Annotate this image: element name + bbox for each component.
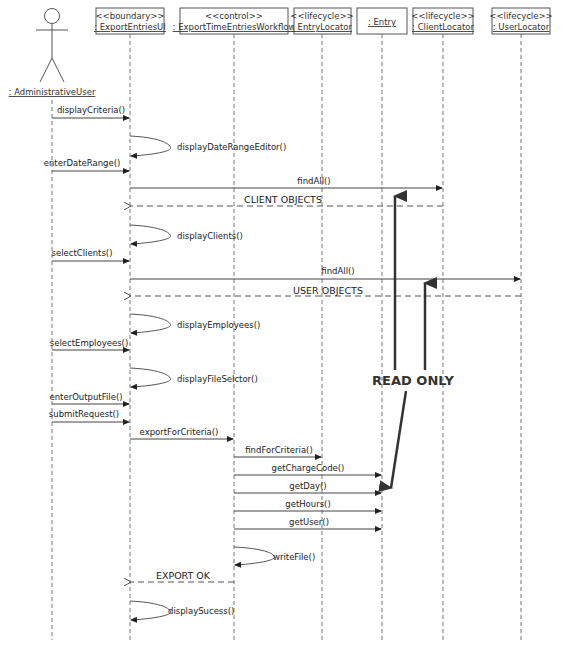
message-export-for-criteria: exportForCriteria() [130, 427, 233, 439]
participant-stereotype: <<lifecycle>> [489, 11, 552, 21]
message-label: enterDateRange() [44, 158, 121, 168]
message-display-employees: displayEmployees() [130, 314, 260, 333]
participant-name: : ExportTimeEntriesWorkflow [173, 22, 296, 32]
message-select-employees: selectEmployees() [50, 338, 129, 350]
message-get-charge-code: getChargeCode() [234, 463, 381, 475]
message-label: displayClients() [177, 231, 243, 241]
participant-user-locator: <<lifecycle>> : UserLocator [489, 8, 552, 34]
participant-name: : Entry [368, 17, 396, 27]
message-find-for-criteria: findForCriteria() [234, 445, 321, 457]
participant-name: : ExportEntriesUI [94, 22, 166, 32]
message-submit-request: submitRequest() [49, 409, 129, 422]
message-label: selectClients() [52, 248, 113, 258]
message-find-all-users: findAll() [130, 266, 520, 279]
message-label: getUser() [289, 517, 329, 527]
message-label: enterOutputFile() [49, 392, 122, 402]
message-label: USER OBJECTS [293, 285, 363, 296]
participant-name: : ClientLocator [412, 22, 474, 32]
participant-stereotype: <<control>> [205, 11, 263, 21]
participant-export-time-entries-workflow: <<control>> : ExportTimeEntriesWorkflow [173, 8, 296, 34]
participant-stereotype: <<lifecycle>> [411, 11, 474, 21]
participant-entry-locator: <<lifecycle>> : EntryLocator [290, 8, 353, 34]
read-only-label: READ ONLY [372, 373, 454, 388]
message-label: findAll() [321, 266, 354, 276]
message-label: displayCriteria() [57, 105, 125, 115]
actor-label: : AdministrativeUser [9, 87, 96, 97]
message-label: CLIENT OBJECTS [244, 194, 322, 205]
message-label: exportForCriteria() [140, 427, 219, 437]
message-label: findForCriteria() [245, 445, 312, 455]
message-label: getHours() [285, 499, 331, 509]
message-find-all-clients: findAll() [130, 176, 442, 188]
message-label: writeFile() [273, 552, 315, 562]
message-select-clients: selectClients() [52, 248, 129, 261]
actor-administrative-user: : AdministrativeUser [9, 9, 96, 98]
participant-export-entries-ui: <<boundary>> : ExportEntriesUI [94, 8, 166, 34]
sequence-diagram: : AdministrativeUser <<boundary>> : Expo… [0, 0, 569, 652]
participant-client-locator: <<lifecycle>> : ClientLocator [411, 8, 474, 34]
read-only-annotation: READ ONLY [372, 196, 454, 488]
message-get-user: getUser() [234, 517, 381, 529]
message-enter-output-file: enterOutputFile() [49, 392, 129, 404]
return-user-objects: USER OBJECTS [131, 285, 521, 296]
arrow-down-icon [391, 391, 406, 488]
message-label: getChargeCode() [272, 463, 345, 473]
message-display-file-selector: displayFileSelctor() [130, 368, 258, 387]
message-enter-date-range: enterDateRange() [44, 158, 129, 171]
message-label: displaySucess() [168, 606, 234, 616]
message-display-clients: displayClients() [130, 225, 243, 244]
message-label: displayDateRangeEditor() [177, 142, 286, 152]
return-export-ok: EXPORT OK [131, 570, 234, 582]
message-get-day: getDay() [234, 481, 381, 493]
participant-entry: : Entry [357, 8, 407, 34]
message-label: EXPORT OK [156, 570, 211, 581]
message-write-file: writeFile() [234, 547, 315, 565]
participant-stereotype: <<boundary>> [96, 11, 165, 21]
message-get-hours: getHours() [234, 499, 381, 511]
participant-name: : UserLocator [493, 22, 550, 32]
participant-name: : EntryLocator [292, 22, 352, 32]
stick-figure-icon [36, 9, 68, 83]
participant-stereotype: <<lifecycle>> [290, 11, 353, 21]
message-label: displayFileSelctor() [177, 374, 258, 384]
lifelines [52, 34, 521, 640]
message-display-criteria: displayCriteria() [52, 105, 129, 118]
message-label: getDay() [289, 481, 326, 491]
message-display-sucess: displaySucess() [130, 601, 234, 620]
message-display-date-range-editor: displayDateRangeEditor() [130, 136, 286, 156]
message-label: selectEmployees() [50, 338, 128, 348]
message-label: submitRequest() [49, 409, 119, 419]
message-label: displayEmployees() [177, 320, 260, 330]
message-label: findAll() [297, 176, 330, 186]
